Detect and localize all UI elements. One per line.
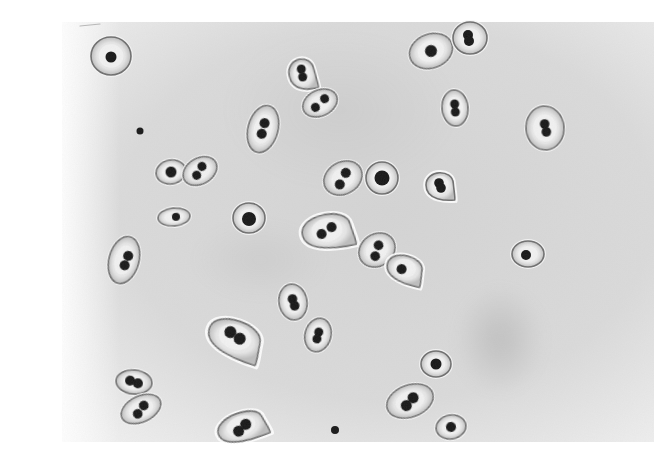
film-grain xyxy=(62,22,654,442)
grain-overlay xyxy=(62,22,654,442)
micrograph-image xyxy=(0,0,670,456)
